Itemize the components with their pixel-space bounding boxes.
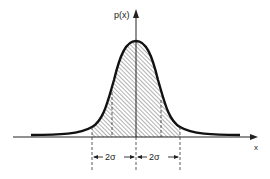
x-axis-label: x xyxy=(254,143,258,152)
gaussian-diagram: p(x) x 2σ 2σ xyxy=(0,0,270,179)
right-interval-label: 2σ xyxy=(149,152,160,162)
x-axis-arrow-icon xyxy=(250,134,258,140)
left-interval-label: 2σ xyxy=(105,152,116,162)
y-axis-label: p(x) xyxy=(114,10,130,20)
y-axis-arrow-icon xyxy=(133,9,139,18)
